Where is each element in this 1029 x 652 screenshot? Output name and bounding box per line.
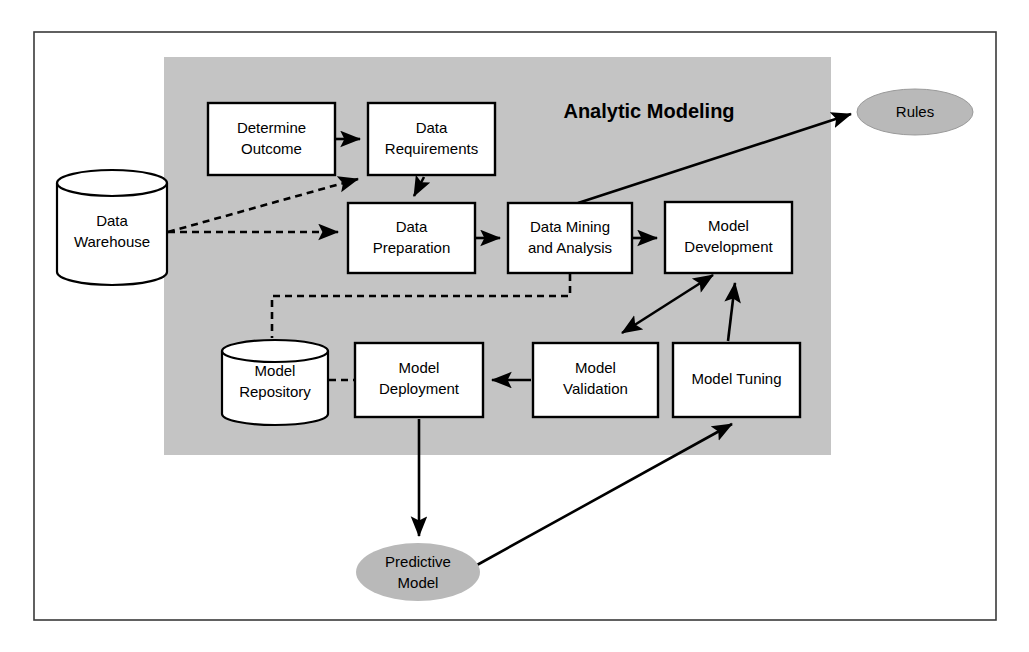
- analytic-modeling-diagram: Determine Outcome Data Requirements Data…: [0, 0, 1029, 652]
- node-model-tuning[interactable]: Model Tuning: [673, 343, 800, 417]
- predictive-model-ellipse[interactable]: [356, 543, 480, 601]
- model-development-label-line2: Development: [684, 238, 773, 255]
- node-model-validation[interactable]: Model Validation: [533, 343, 658, 417]
- predictive-model-label-line2: Model: [398, 574, 439, 591]
- model-repository-label-line1: Model: [255, 362, 296, 379]
- node-predictive-model[interactable]: Predictive Model: [356, 543, 480, 601]
- model-tuning-label-line1: Model Tuning: [691, 370, 781, 387]
- predictive-model-label-line1: Predictive: [385, 553, 451, 570]
- data-warehouse-label-line1: Data: [96, 212, 128, 229]
- node-model-repository[interactable]: Model Repository: [222, 340, 328, 425]
- panel-title: Analytic Modeling: [563, 100, 734, 122]
- data-requirements-label-line1: Data: [416, 119, 448, 136]
- model-repository-label-line2: Repository: [239, 383, 311, 400]
- data-warehouse-label-line2: Warehouse: [74, 233, 150, 250]
- node-rules[interactable]: Rules: [857, 89, 973, 135]
- node-model-development[interactable]: Model Development: [665, 202, 792, 273]
- data-mining-label-line1: Data Mining: [530, 218, 610, 235]
- model-validation-label-line2: Validation: [563, 380, 628, 397]
- node-data-mining-and-analysis[interactable]: Data Mining and Analysis: [508, 203, 632, 273]
- model-development-label-line1: Model: [708, 217, 749, 234]
- data-requirements-label-line2: Requirements: [385, 140, 478, 157]
- data-preparation-label-line2: Preparation: [373, 239, 451, 256]
- model-deployment-label-line2: Deployment: [379, 380, 460, 397]
- node-data-warehouse[interactable]: Data Warehouse: [57, 170, 167, 285]
- determine-outcome-label-line2: Outcome: [241, 140, 302, 157]
- data-preparation-label-line1: Data: [396, 218, 428, 235]
- model-repository-cylinder-top: [222, 340, 328, 362]
- model-validation-label-line1: Model: [575, 359, 616, 376]
- node-data-requirements[interactable]: Data Requirements: [368, 103, 495, 175]
- node-determine-outcome[interactable]: Determine Outcome: [208, 103, 335, 175]
- diagram-canvas: Determine Outcome Data Requirements Data…: [0, 0, 1029, 652]
- determine-outcome-label-line1: Determine: [237, 119, 306, 136]
- rules-label: Rules: [896, 103, 934, 120]
- data-warehouse-cylinder-top: [57, 170, 167, 196]
- node-data-preparation[interactable]: Data Preparation: [348, 203, 475, 273]
- node-model-deployment[interactable]: Model Deployment: [355, 343, 483, 417]
- data-mining-label-line2: and Analysis: [528, 239, 612, 256]
- model-deployment-label-line1: Model: [399, 359, 440, 376]
